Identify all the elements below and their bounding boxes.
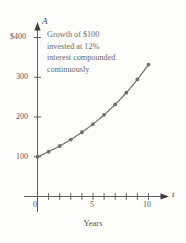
annotation-line-4: continuously <box>47 64 139 76</box>
x-axis-title: Years <box>0 219 186 228</box>
data-point-year-4 <box>80 130 84 134</box>
data-point-year-2 <box>58 144 62 148</box>
growth-curve-line <box>38 65 149 157</box>
data-point-markers <box>36 63 151 159</box>
y-tick-label-400: $400 <box>10 33 26 41</box>
y-axis-arrow-icon <box>34 22 40 31</box>
x-tick-label-10: 10 <box>143 201 151 209</box>
data-point-year-9 <box>136 78 140 82</box>
x-axis-arrow-icon <box>161 193 170 199</box>
x-tick-label-0: 0 <box>33 201 37 209</box>
y-tick-label-100: 100 <box>16 153 28 161</box>
exponential-growth-chart: A t $400 300 200 100 0 5 10 Growth of $1… <box>0 0 186 243</box>
y-tick-label-300: 300 <box>16 73 28 81</box>
data-point-year-6 <box>102 113 106 117</box>
annotation-line-3: interest compounded <box>47 52 139 64</box>
chart-annotation: Growth of $100 invested at 12% interest … <box>47 29 139 75</box>
data-point-year-7 <box>113 103 117 107</box>
x-tick-label-5: 5 <box>90 201 94 209</box>
data-point-year-3 <box>69 138 73 142</box>
data-point-year-1 <box>47 150 51 154</box>
data-point-year-5 <box>91 122 95 126</box>
data-point-year-0 <box>36 155 40 159</box>
annotation-line-2: invested at 12% <box>47 41 139 53</box>
y-tick-label-200: 200 <box>16 113 28 121</box>
data-point-year-10 <box>147 63 151 67</box>
y-axis-symbol-label: A <box>42 17 48 26</box>
data-point-year-8 <box>124 91 128 95</box>
x-axis-symbol-label: t <box>172 190 175 199</box>
annotation-line-1: Growth of $100 <box>47 29 139 41</box>
